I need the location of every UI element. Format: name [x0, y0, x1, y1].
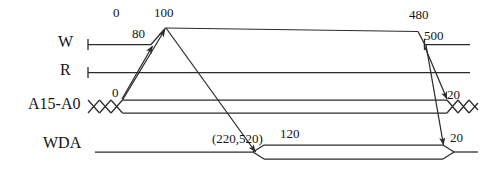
w-high: [166, 28, 419, 32]
waveform-wda: [95, 145, 478, 159]
signal-label-r: R: [60, 61, 71, 79]
time-label-0: 0: [113, 5, 120, 21]
wda-range-label: (220,520): [212, 131, 263, 147]
signal-label-a15-a0: A15-A0: [28, 95, 80, 113]
a15-a0-invalid-left: [88, 100, 123, 113]
wda-close-top: [443, 145, 454, 152]
wda-label-20: 20: [450, 130, 463, 146]
timing-diagram-canvas: W R A15-A0 WDA 0 100 480 80 500 0 20 120…: [0, 0, 490, 172]
wda-open-bottom: [253, 152, 264, 159]
time-label-500: 500: [424, 28, 444, 44]
addr-label-20: 20: [447, 87, 460, 103]
signal-label-w: W: [58, 33, 73, 51]
signal-label-wda: WDA: [43, 134, 81, 152]
wda-label-120: 120: [280, 126, 300, 142]
time-label-80: 80: [132, 26, 145, 42]
time-label-100: 100: [154, 5, 174, 21]
waveform-r: [88, 67, 470, 78]
arrow-w500-to-wda-hold: [426, 45, 444, 145]
waveform-w: [88, 28, 470, 50]
time-label-480: 480: [409, 7, 429, 23]
wda-close-bottom: [443, 152, 454, 159]
w-rising-edge: [151, 28, 166, 45]
addr-label-0: 0: [112, 85, 119, 101]
waveform-a15-a0: [88, 100, 478, 113]
